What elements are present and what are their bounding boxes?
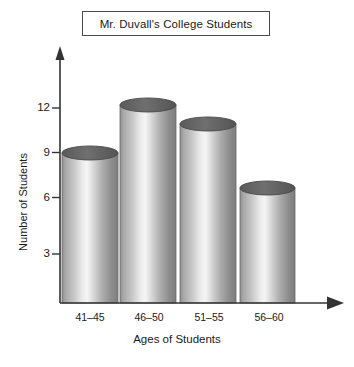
bar-series	[62, 98, 295, 303]
up-arrow-icon	[56, 46, 65, 60]
bar-0	[62, 146, 118, 303]
right-arrow-icon	[327, 297, 344, 310]
chart-container: Mr. Duvall's College Students Number of …	[0, 0, 354, 367]
bar-1	[120, 98, 176, 303]
plot-area	[0, 0, 354, 367]
bar-3	[240, 181, 295, 303]
y-tick-marks	[52, 108, 60, 254]
bar-2	[180, 117, 236, 303]
